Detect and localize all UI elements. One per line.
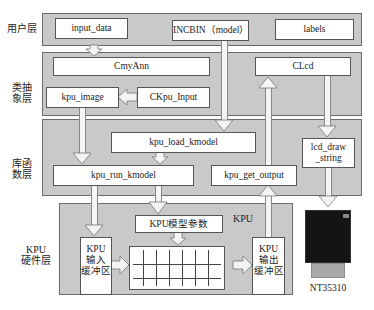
kpu-input-buffer-label-line2: 输入 [86, 255, 106, 266]
arrow-down-icon [149, 202, 169, 215]
kpu-image-label: kpu_image [61, 92, 103, 103]
input-data-label: input_data [71, 23, 111, 34]
cmyann-label: CmyAnn [114, 61, 149, 72]
kpu-output-buffer-label-line2: 输出 [259, 255, 279, 266]
kpu-model-params-box: KPU模型参数 [135, 215, 223, 233]
lcd-connector [311, 263, 345, 278]
grid-hline [133, 278, 221, 279]
lcd-draw-string-label-line1: lcd_draw [311, 142, 346, 153]
kpu-get-output-box: kpu_get_output [211, 165, 297, 186]
arrow-up-icon [259, 77, 279, 89]
grid-vline [195, 250, 196, 286]
ckpu-input-label: CKpu_Input [150, 92, 198, 103]
output-to-clcd-connector [265, 88, 272, 165]
kpu-load-kmodel-box: kpu_load_kmodel [111, 132, 256, 153]
input-data-box: input_data [55, 18, 128, 39]
lcd-corner-tab [343, 214, 349, 218]
arrow-left-icon [118, 89, 138, 105]
layer-label-class-abstraction: 类抽 象层 [4, 82, 40, 104]
kpu-load-kmodel-label: kpu_load_kmodel [149, 137, 218, 148]
arrow-down-icon [84, 45, 104, 57]
incbin-model-label: INCBIN（model） [173, 25, 248, 36]
kpu-get-output-label: kpu_get_output [224, 170, 284, 181]
kpu-output-buffer-box: KPU 输出 缓冲区 [252, 237, 285, 295]
kpu-output-buffer-label-line3: 缓冲区 [254, 266, 284, 277]
grid-hline [133, 264, 221, 265]
cmyann-box: CmyAnn [53, 57, 210, 76]
arrow-up-icon [259, 185, 279, 197]
labels-label: labels [303, 24, 325, 35]
kpu-compute-grid [129, 246, 225, 290]
run-to-params-connector [155, 185, 162, 203]
arrow-down-icon [318, 126, 338, 138]
arrow-right-icon [111, 256, 129, 274]
output-buffer-to-get-output-connector [265, 196, 272, 237]
arrow-down-icon [85, 225, 105, 237]
kpu-run-kmodel-label: kpu_run_kmodel [91, 170, 156, 181]
kpu-input-buffer-label-line3: 缓冲区 [81, 266, 111, 277]
lcd-draw-string-label-line2: _string [315, 153, 341, 164]
clcd-connector [324, 75, 331, 127]
incbin-connector [221, 40, 228, 122]
incbin-model-box: INCBIN（model） [172, 20, 249, 41]
grid-vline [156, 250, 157, 286]
grid-vline [143, 250, 144, 286]
arrow-down-icon [168, 232, 188, 246]
lcd-draw-to-display-connector [325, 167, 332, 197]
kpu-output-buffer-label-line1: KPU [259, 244, 278, 255]
kpu-input-buffer-label-line1: KPU [86, 244, 105, 255]
lcd-display-image [305, 210, 351, 282]
kpu-run-kmodel-box: kpu_run_kmodel [53, 165, 194, 186]
ckpu-input-box: CKpu_Input [137, 87, 210, 108]
clcd-box: CLcd [255, 57, 351, 76]
kpu-model-params-label: KPU模型参数 [149, 219, 208, 230]
arrow-down-icon [215, 120, 235, 132]
clcd-label: CLcd [292, 61, 313, 72]
labels-box: labels [275, 19, 354, 40]
image-to-run-connector [79, 107, 86, 154]
arrow-down-icon [150, 152, 170, 165]
grid-vline [169, 250, 170, 286]
grid-vline [182, 250, 183, 286]
layer-label-kpu-hardware: KPU 硬件层 [14, 244, 58, 266]
kpu-title: KPU [228, 213, 258, 224]
display-model-label: NT35310 [300, 283, 356, 294]
arrow-down-icon [319, 196, 339, 208]
lcd-draw-string-box: lcd_draw _string [302, 138, 355, 168]
arrow-right-icon [233, 256, 252, 274]
run-to-input-buffer-connector [91, 185, 98, 225]
kpu-image-box: kpu_image [46, 87, 119, 108]
layer-label-library: 库函 数层 [4, 158, 40, 180]
layer-label-user: 用户层 [4, 23, 40, 34]
grid-vline [208, 250, 209, 286]
kpu-input-buffer-box: KPU 输入 缓冲区 [80, 237, 112, 295]
arrow-down-icon [73, 153, 93, 165]
